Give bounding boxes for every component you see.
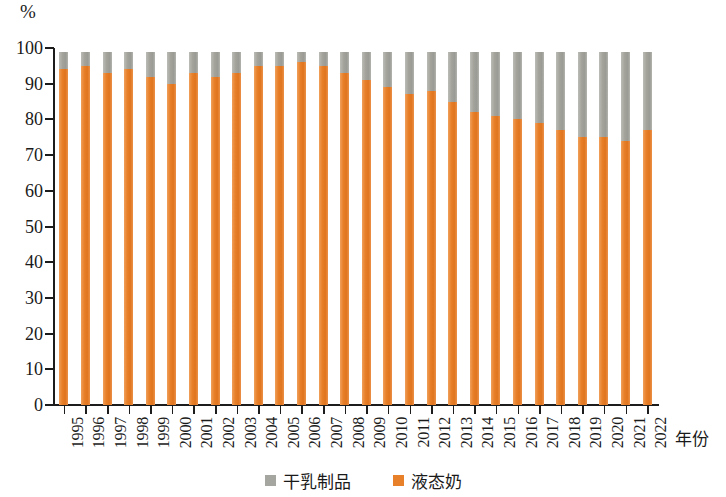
x-axis-tick-label: 2008: [351, 417, 367, 448]
chart-legend: 干乳制品 液态奶: [0, 468, 726, 493]
bar-segment-liquid-milk: [275, 66, 284, 405]
bar-segment-liquid-milk: [232, 73, 241, 405]
legend-item-dry-dairy: 干乳制品: [265, 468, 351, 493]
y-axis-tick-label: 0: [1, 396, 43, 414]
bar-segment-liquid-milk: [211, 77, 220, 405]
x-axis-tick-label: 1996: [91, 417, 107, 448]
x-axis-tick-label: 2001: [199, 417, 215, 448]
bar-segment-dry-dairy: [556, 52, 565, 131]
bar-segment-liquid-milk: [103, 73, 112, 405]
bar-2021: [621, 52, 630, 405]
bar-segment-liquid-milk: [297, 62, 306, 405]
bar-2020: [599, 52, 608, 405]
x-axis-tick: [85, 406, 87, 414]
bar-1997: [103, 52, 112, 405]
bar-segment-dry-dairy: [362, 52, 371, 81]
bar-2002: [211, 52, 220, 405]
bar-segment-dry-dairy: [146, 52, 155, 77]
x-axis-tick-label: 2007: [329, 417, 345, 448]
bar-segment-dry-dairy: [297, 52, 306, 63]
x-axis-tick-label: 1999: [156, 417, 172, 448]
x-axis-tick-label: 2017: [545, 417, 561, 448]
bar-segment-liquid-milk: [405, 94, 414, 405]
bar-2004: [254, 52, 263, 405]
bar-2003: [232, 52, 241, 405]
bar-2015: [491, 52, 500, 405]
x-axis-tick: [474, 406, 476, 414]
bar-segment-liquid-milk: [189, 73, 198, 405]
bar-2009: [362, 52, 371, 405]
x-axis-tick-label: 2009: [372, 417, 388, 448]
bar-segment-dry-dairy: [448, 52, 457, 102]
x-axis-tick-label: 2004: [264, 417, 280, 448]
y-axis-tick-label: 90: [1, 75, 43, 93]
x-axis-tick-label: 2000: [178, 417, 194, 448]
x-axis-tick-label: 1995: [70, 417, 86, 448]
x-axis-tick: [518, 406, 520, 414]
bar-segment-liquid-milk: [254, 66, 263, 405]
y-axis-tick-label: 100: [1, 39, 43, 57]
bar-segment-liquid-milk: [59, 69, 68, 405]
bar-segment-dry-dairy: [383, 52, 392, 88]
bar-segment-dry-dairy: [167, 52, 176, 84]
bar-segment-liquid-milk: [448, 102, 457, 405]
bar-2011: [405, 52, 414, 405]
bar-segment-dry-dairy: [535, 52, 544, 123]
x-axis-tick-label: 2020: [610, 417, 626, 448]
x-axis-title: 年份: [675, 425, 709, 450]
bar-segment-dry-dairy: [405, 52, 414, 95]
y-axis-tick-label: 50: [1, 218, 43, 236]
bar-2007: [319, 52, 328, 405]
bar-segment-liquid-milk: [124, 69, 133, 405]
y-axis-tick-label: 40: [1, 253, 43, 271]
bar-segment-dry-dairy: [643, 52, 652, 131]
y-axis-tick-label: 10: [1, 360, 43, 378]
bar-segment-dry-dairy: [189, 52, 198, 73]
y-axis-tick-label: 20: [1, 325, 43, 343]
bar-segment-liquid-milk: [81, 66, 90, 405]
bar-segment-liquid-milk: [535, 123, 544, 405]
x-axis-tick: [172, 406, 174, 414]
x-axis-tick: [258, 406, 260, 414]
x-axis-tick: [561, 406, 563, 414]
x-axis-tick-label: 2014: [480, 417, 496, 448]
bar-2012: [427, 52, 436, 405]
bar-segment-dry-dairy: [427, 52, 436, 91]
x-axis-tick-label: 2015: [502, 417, 518, 448]
x-axis-tick: [388, 406, 390, 414]
legend-swatch-dry-dairy-icon: [265, 475, 276, 486]
bar-segment-dry-dairy: [211, 52, 220, 77]
bar-segment-dry-dairy: [103, 52, 112, 73]
x-axis-tick-label: 2006: [307, 417, 323, 448]
bar-segment-liquid-milk: [621, 141, 630, 405]
bar-segment-liquid-milk: [513, 119, 522, 405]
x-axis-tick-label: 2003: [243, 417, 259, 448]
legend-label-dry-dairy: 干乳制品: [283, 468, 351, 493]
y-axis-tick-label: 60: [1, 182, 43, 200]
x-axis-tick: [366, 406, 368, 414]
bar-2018: [556, 52, 565, 405]
x-axis-tick: [604, 406, 606, 414]
bar-segment-dry-dairy: [491, 52, 500, 116]
x-axis-tick: [453, 406, 455, 414]
bar-1998: [124, 52, 133, 405]
legend-item-liquid-milk: 液态奶: [393, 468, 462, 493]
bar-segment-liquid-milk: [578, 137, 587, 405]
x-axis-tick-label: 2010: [394, 417, 410, 448]
x-axis-tick: [280, 406, 282, 414]
x-axis-tick: [647, 406, 649, 414]
bar-2006: [297, 52, 306, 405]
x-axis-tick-label: 1998: [135, 417, 151, 448]
x-axis-tick-label: 2005: [286, 417, 302, 448]
bar-segment-dry-dairy: [513, 52, 522, 120]
bar-2016: [513, 52, 522, 405]
bar-2013: [448, 52, 457, 405]
x-axis-tick: [582, 406, 584, 414]
stacked-bar-chart: % 0102030405060708090100 199519961997199…: [0, 0, 726, 497]
bar-1995: [59, 52, 68, 405]
bar-segment-liquid-milk: [319, 66, 328, 405]
x-axis-tick-label: 1997: [113, 417, 129, 448]
x-axis-tick-label: 2012: [437, 417, 453, 448]
bar-2001: [189, 52, 198, 405]
x-axis-tick: [323, 406, 325, 414]
